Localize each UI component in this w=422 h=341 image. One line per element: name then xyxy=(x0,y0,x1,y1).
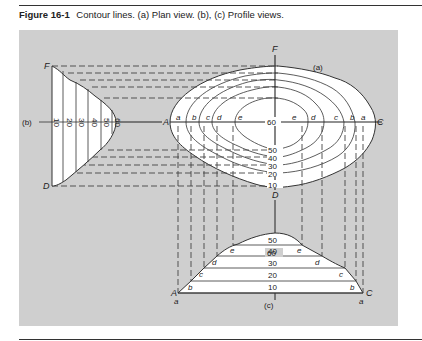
profile-c-label: (c) xyxy=(264,301,274,310)
point-c: C xyxy=(377,117,384,127)
contour-label-a-right: a xyxy=(361,113,366,122)
profile-c-d-right: d xyxy=(315,258,320,267)
contour-label-c-right: c xyxy=(334,113,338,122)
contour-label-d-left: d xyxy=(217,113,222,122)
profile-c-e-left: e xyxy=(230,246,235,255)
contour-label-b-right: b xyxy=(350,113,355,122)
elevation-20: 20 xyxy=(268,170,277,179)
profile-c-40: 40 xyxy=(268,247,277,256)
profile-b: (b) F D 10 20 30 40 50 60 xyxy=(22,61,122,191)
profile-c-20: 20 xyxy=(268,271,277,280)
profile-b-30: 30 xyxy=(77,118,86,127)
elevation-10: 10 xyxy=(268,181,277,190)
contour-label-d-right: d xyxy=(311,113,316,122)
profile-c-e-right: e xyxy=(297,246,302,255)
elevation-labels: 50 40 30 20 10 xyxy=(267,145,283,190)
profile-c-30: 30 xyxy=(268,259,277,268)
profile-c-a-right: a xyxy=(359,297,364,306)
profile-c-c-right: c xyxy=(339,270,343,279)
contour-label-a-left: a xyxy=(176,113,181,122)
profile-c-b-left: b xyxy=(188,283,193,292)
point-f-top: F xyxy=(272,44,278,54)
profile-b-50: 50 xyxy=(102,118,111,127)
center-elevation: 60 xyxy=(267,118,276,127)
profile-c-point-c: C xyxy=(366,288,373,298)
contour-label-e-right: e xyxy=(292,113,297,122)
profile-b-10: 10 xyxy=(52,118,61,127)
profile-b-point-d: D xyxy=(43,181,50,191)
profile-c-50: 50 xyxy=(268,236,277,245)
bottom-rule xyxy=(19,339,422,340)
contour-diagram: F A C D (a) 60 a b c d e e d c b a 50 40… xyxy=(0,0,422,341)
contour-label-e-left: e xyxy=(238,113,243,122)
point-d: D xyxy=(272,190,279,200)
point-a: A xyxy=(162,117,169,127)
contour-label-c-left: c xyxy=(206,113,210,122)
plan-view-label: (a) xyxy=(313,63,323,72)
profile-b-60: 60 xyxy=(113,118,122,127)
contour-label-b-left: b xyxy=(192,113,197,122)
profile-c-b-right: b xyxy=(350,283,355,292)
profile-c-c-left: c xyxy=(199,270,203,279)
profile-c-d-left: d xyxy=(212,258,217,267)
profile-b-label: (b) xyxy=(22,118,32,127)
profile-c-10: 10 xyxy=(268,283,277,292)
profile-c: 60 50 40 30 20 10 A C a b c d e e d c b … xyxy=(170,233,373,310)
profile-c-a-left: a xyxy=(174,297,179,306)
profile-b-40: 40 xyxy=(90,118,99,127)
profile-b-point-f: F xyxy=(44,61,50,71)
profile-b-20: 20 xyxy=(65,118,74,127)
